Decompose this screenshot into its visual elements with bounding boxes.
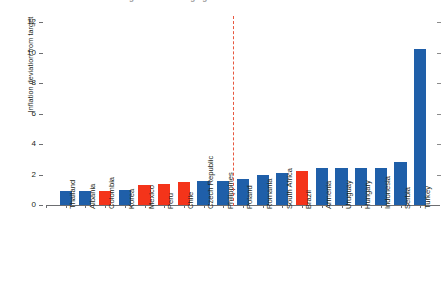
x-tick-mark bbox=[184, 205, 185, 208]
x-label-peru: Peru bbox=[167, 193, 175, 209]
x-label-brazil: Brazil bbox=[305, 190, 313, 209]
y-tick-mark bbox=[39, 83, 43, 84]
chart-root: Inflation deviation from target across e… bbox=[0, 0, 443, 289]
y-tick-label: 12 bbox=[14, 18, 36, 26]
chart-title-cropped: Inflation deviation from target across e… bbox=[28, 0, 288, 7]
x-tick-mark bbox=[243, 205, 244, 208]
y-tick-mark-right bbox=[437, 144, 441, 145]
threshold-divider-line bbox=[233, 16, 234, 206]
x-tick-mark bbox=[66, 205, 67, 208]
x-label-korea: Korea bbox=[128, 189, 136, 209]
x-label-armenia: Armenia bbox=[325, 181, 333, 209]
y-tick-mark bbox=[39, 22, 43, 23]
chart-title-text: Inflation deviation from target across e… bbox=[28, 0, 240, 3]
y-tick-mark-right bbox=[437, 22, 441, 23]
x-label-colombia: Colombia bbox=[108, 177, 116, 209]
y-tick-mark-right bbox=[437, 83, 441, 84]
y-tick-label: 6 bbox=[14, 110, 36, 118]
y-tick-mark bbox=[39, 114, 43, 115]
x-label-uruguay: Uruguay bbox=[345, 180, 353, 209]
y-tick-mark-right bbox=[437, 53, 441, 54]
y-tick-label: 10 bbox=[14, 49, 36, 57]
x-axis-origin-tick bbox=[46, 205, 47, 208]
x-label-albania: Albania bbox=[89, 184, 97, 209]
y-tick-mark bbox=[39, 205, 43, 206]
bar-turkey bbox=[414, 49, 426, 205]
x-label-czech-republic: Czech Republic bbox=[207, 156, 215, 209]
x-label-serbia: Serbia bbox=[404, 187, 412, 209]
x-tick-mark bbox=[401, 205, 402, 208]
x-label-thailand: Thailand bbox=[69, 180, 77, 209]
x-label-poland: Poland bbox=[246, 185, 254, 209]
y-tick-label: 0 bbox=[14, 201, 36, 209]
x-tick-mark bbox=[145, 205, 146, 208]
y-tick-mark bbox=[39, 53, 43, 54]
x-tick-mark bbox=[282, 205, 283, 208]
x-label-hungary: Hungary bbox=[364, 180, 372, 209]
x-tick-mark bbox=[263, 205, 264, 208]
x-label-indonesia: Indonesia bbox=[384, 176, 392, 209]
x-tick-mark bbox=[85, 205, 86, 208]
y-tick-label: 8 bbox=[14, 79, 36, 87]
y-tick-mark-right bbox=[437, 114, 441, 115]
x-tick-mark bbox=[125, 205, 126, 208]
y-tick-mark-right bbox=[437, 175, 441, 176]
x-label-south-africa: South Africa bbox=[286, 168, 294, 209]
x-tick-mark bbox=[322, 205, 323, 208]
x-tick-mark bbox=[302, 205, 303, 208]
x-label-chile: Chile bbox=[187, 192, 195, 209]
x-tick-mark bbox=[204, 205, 205, 208]
x-label-mexico: Mexico bbox=[148, 185, 156, 209]
y-tick-mark bbox=[39, 144, 43, 145]
x-label-romania: Romania bbox=[266, 179, 274, 209]
y-tick-mark bbox=[39, 175, 43, 176]
y-tick-label: 4 bbox=[14, 140, 36, 148]
x-label-turkey: Turkey bbox=[424, 186, 432, 209]
x-tick-mark bbox=[420, 205, 421, 208]
x-tick-mark bbox=[223, 205, 224, 208]
x-tick-mark bbox=[381, 205, 382, 208]
y-tick-label: 2 bbox=[14, 171, 36, 179]
x-tick-mark bbox=[105, 205, 106, 208]
x-tick-mark bbox=[342, 205, 343, 208]
